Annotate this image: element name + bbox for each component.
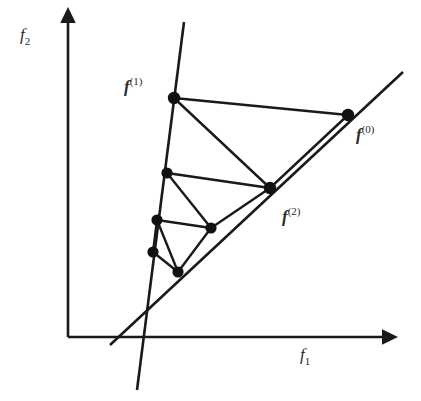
point-f-3 <box>161 167 172 178</box>
point-f-7 <box>147 246 158 257</box>
edge-f2-f3 <box>167 173 270 188</box>
y-axis-label: f2 <box>20 25 30 47</box>
label-f-0: f(0) <box>356 123 375 144</box>
edge-f4-f5 <box>157 220 211 228</box>
edge-f1-f0 <box>174 98 348 115</box>
shallow-line <box>110 72 403 345</box>
labels-group: f(0)f(1)f(2)f1f2 <box>20 25 375 367</box>
point-f-5 <box>151 214 162 225</box>
diagram-canvas: f(0)f(1)f(2)f1f2 <box>0 0 421 401</box>
edge-f3-f4 <box>167 173 211 228</box>
objective-space-figure: f(0)f(1)f(2)f1f2 <box>0 0 421 401</box>
point-f-0 <box>342 109 354 121</box>
edge-f1-f2 <box>174 98 270 188</box>
label-f-1-superscript: (1) <box>130 75 143 88</box>
x-axis-label: f1 <box>300 345 310 367</box>
x-axis-label-subscript: 1 <box>305 355 311 367</box>
polytope-edges-group <box>153 98 348 272</box>
label-f-2-superscript: (2) <box>288 205 301 218</box>
edge-f0-f2 <box>270 115 348 188</box>
point-f-2 <box>264 182 276 194</box>
point-f-4 <box>205 222 216 233</box>
point-f-1 <box>168 92 180 104</box>
label-f-0-superscript: (0) <box>362 123 375 136</box>
constraint-lines-group <box>110 22 403 390</box>
point-f-6 <box>172 266 183 277</box>
y-axis-label-subscript: 2 <box>25 35 31 47</box>
axes-group <box>68 20 385 337</box>
steep-line <box>137 22 184 390</box>
label-f-2: f(2) <box>282 205 301 226</box>
label-f-1: f(1) <box>124 75 143 96</box>
